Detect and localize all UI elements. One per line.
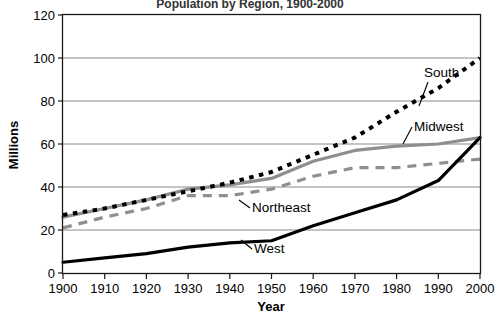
series-label-south: South bbox=[424, 65, 459, 80]
x-tick-label: 1960 bbox=[299, 281, 328, 296]
x-tick-label: 1940 bbox=[215, 281, 244, 296]
y-tick-label: 0 bbox=[48, 266, 55, 281]
x-tick-label: 2000 bbox=[466, 281, 495, 296]
y-tick-label: 20 bbox=[41, 223, 55, 238]
x-tick-label: 1910 bbox=[90, 281, 119, 296]
x-tick-label: 1920 bbox=[132, 281, 161, 296]
x-tick-label: 1900 bbox=[49, 281, 78, 296]
line-chart: Population by Region, 1900-2000 02040608… bbox=[0, 0, 499, 321]
series-label-midwest: Midwest bbox=[414, 119, 464, 134]
x-tick-label: 1990 bbox=[424, 281, 453, 296]
y-axis-title: Millions bbox=[6, 121, 21, 169]
y-tick-label: 80 bbox=[41, 94, 55, 109]
x-tick-label: 1950 bbox=[257, 281, 286, 296]
y-tick-label: 40 bbox=[41, 180, 55, 195]
x-tick-label: 1930 bbox=[174, 281, 203, 296]
series-label-west: West bbox=[254, 241, 285, 256]
chart-container: Population by Region, 1900-2000 02040608… bbox=[0, 0, 499, 321]
x-tick-label: 1980 bbox=[382, 281, 411, 296]
series-label-northeast: Northeast bbox=[252, 200, 311, 215]
y-tick-label: 100 bbox=[33, 51, 55, 66]
x-tick-label: 1970 bbox=[340, 281, 369, 296]
x-axis-title: Year bbox=[257, 299, 284, 314]
chart-title: Population by Region, 1900-2000 bbox=[156, 0, 344, 11]
y-tick-label: 60 bbox=[41, 137, 55, 152]
x-axis-tick-labels: 1900191019201930194019501960197019801990… bbox=[49, 281, 495, 296]
y-tick-label: 120 bbox=[33, 8, 55, 23]
